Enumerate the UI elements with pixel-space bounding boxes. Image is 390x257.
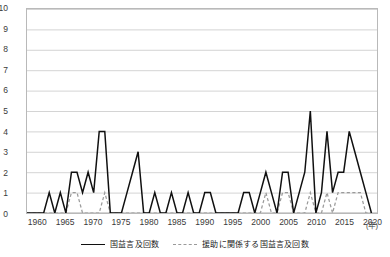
chart-legend: 国益言及回数援助に関係する国益言及回数 [0, 238, 390, 249]
x-tick-label: 2005 [279, 218, 298, 227]
y-tick-label: 6 [0, 86, 8, 95]
legend-solid-line-icon [81, 240, 105, 247]
x-axis-unit-label: (年) [366, 219, 378, 230]
legend-item-label: 国益言及回数 [110, 238, 159, 249]
x-tick-label: 1960 [28, 218, 47, 227]
y-tick-label: 1 [0, 189, 8, 198]
x-tick-label: 1995 [223, 218, 242, 227]
y-tick-label: 3 [0, 148, 8, 157]
y-tick-label: 0 [0, 210, 8, 219]
x-tick-label: 2015 [335, 218, 354, 227]
x-tick-label: 2010 [307, 218, 326, 227]
x-tick-label: 1970 [84, 218, 103, 227]
legend-dashed-line-icon [173, 240, 197, 247]
y-tick-label: 7 [0, 66, 8, 75]
legend-item-label: 援助に関係する国益言及回数 [202, 238, 309, 249]
x-tick-label: 2000 [251, 218, 270, 227]
plot-area [26, 8, 378, 214]
x-tick-label: 1985 [167, 218, 186, 227]
y-tick-label: 4 [0, 127, 8, 136]
series-lines [27, 9, 377, 213]
legend-item[interactable]: 国益言及回数 [81, 238, 159, 249]
y-tick-label: 2 [0, 169, 8, 178]
x-tick-label: 1965 [56, 218, 75, 227]
y-tick-label: 8 [0, 45, 8, 54]
x-tick-label: 1990 [195, 218, 214, 227]
x-tick-label: 1980 [139, 218, 158, 227]
y-tick-label: 5 [0, 107, 8, 116]
chart-container: 109876543210 196019651970197519801985199… [0, 0, 390, 257]
y-tick-label: 9 [0, 24, 8, 33]
legend-item[interactable]: 援助に関係する国益言及回数 [173, 238, 309, 249]
x-tick-label: 1975 [112, 218, 131, 227]
y-tick-label: 10 [0, 4, 8, 13]
